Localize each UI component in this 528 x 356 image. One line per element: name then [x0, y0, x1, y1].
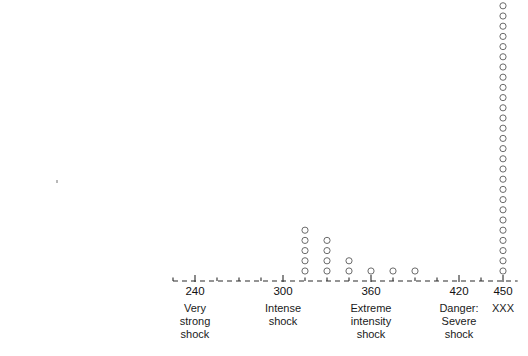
data-point: [302, 258, 308, 264]
data-point: [500, 125, 506, 131]
data-point: [346, 258, 352, 264]
x-tick-label: 240: [185, 285, 204, 297]
x-category-labels: SlightshockVerystrongshockIntenseshockEx…: [0, 302, 515, 340]
x-category-line: shock: [181, 328, 210, 340]
data-point: [500, 13, 506, 19]
data-point: [500, 33, 506, 39]
x-category-line: Intense: [265, 302, 301, 314]
x-category-label: Extremeintensityshock: [351, 302, 392, 340]
artifacts: [56, 180, 58, 183]
x-category-line: shock: [357, 328, 386, 340]
dot-stack: [324, 237, 330, 274]
x-tick-label: 420: [449, 285, 468, 297]
x-category-label: XXX: [492, 302, 515, 314]
x-axis: [0, 275, 518, 282]
dot-stack: [302, 227, 308, 274]
x-tick-label: 450: [493, 285, 512, 297]
data-point: [302, 237, 308, 243]
scan-speck: [56, 180, 58, 183]
data-point: [500, 207, 506, 213]
data-point: [500, 105, 506, 111]
data-point: [500, 176, 506, 182]
x-category-line: strong: [180, 315, 211, 327]
data-point: [500, 156, 506, 162]
data-point: [500, 268, 506, 274]
data-point: [500, 227, 506, 233]
dot-stack: [412, 268, 418, 274]
x-category-line: Danger:: [439, 302, 478, 314]
dot-stack: [346, 258, 352, 274]
data-point: [500, 115, 506, 121]
data-point: [500, 186, 506, 192]
data-point: [500, 95, 506, 101]
data-point: [500, 64, 506, 70]
dot-plot-chart: 060240300360420450 SlightshockVerystrong…: [0, 0, 528, 356]
data-point: [324, 237, 330, 243]
data-point: [302, 268, 308, 274]
data-point: [412, 268, 418, 274]
x-tick-labels: 060240300360420450: [0, 285, 513, 297]
data-point: [500, 237, 506, 243]
x-category-line: Very: [184, 302, 207, 314]
data-point: [500, 74, 506, 80]
data-point: [500, 54, 506, 60]
data-markers: [302, 3, 506, 274]
data-point: [500, 217, 506, 223]
x-category-line: intensity: [351, 315, 392, 327]
data-point: [500, 23, 506, 29]
x-category-line: shock: [445, 328, 474, 340]
data-point: [500, 84, 506, 90]
data-point: [500, 166, 506, 172]
data-point: [302, 227, 308, 233]
data-point: [390, 268, 396, 274]
x-tick-label: 300: [273, 285, 292, 297]
data-point: [500, 258, 506, 264]
dot-stack: [500, 3, 506, 274]
x-category-label: Verystrongshock: [180, 302, 211, 340]
dot-stack: [390, 268, 396, 274]
x-category-line: Extreme: [351, 302, 392, 314]
data-point: [500, 197, 506, 203]
data-point: [324, 258, 330, 264]
dot-stack: [368, 268, 374, 274]
data-point: [500, 146, 506, 152]
x-category-label: Intenseshock: [265, 302, 301, 327]
x-category-label: Danger:Severeshock: [439, 302, 478, 340]
data-point: [346, 268, 352, 274]
x-tick-label: 360: [361, 285, 380, 297]
data-point: [500, 135, 506, 141]
data-point: [500, 248, 506, 254]
x-category-line: shock: [269, 315, 298, 327]
data-point: [500, 3, 506, 9]
x-category-line: Severe: [442, 315, 477, 327]
data-point: [302, 248, 308, 254]
data-point: [324, 248, 330, 254]
data-point: [324, 268, 330, 274]
data-point: [368, 268, 374, 274]
data-point: [500, 44, 506, 50]
x-category-line: XXX: [492, 302, 515, 314]
